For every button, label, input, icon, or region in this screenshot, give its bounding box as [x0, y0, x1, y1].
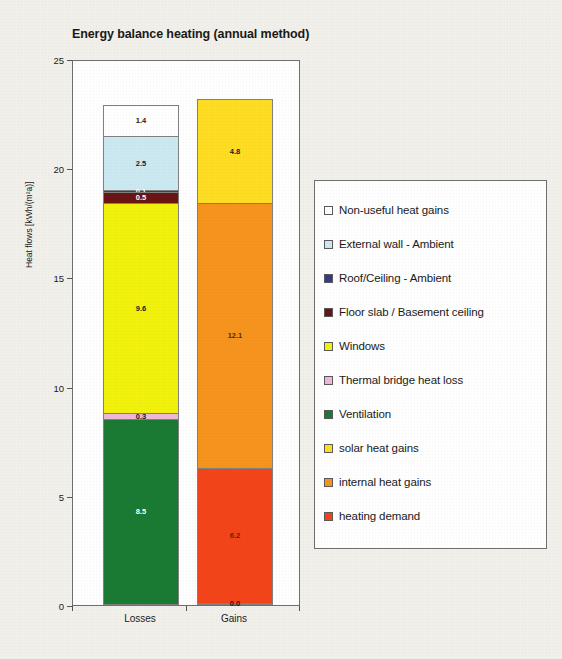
x-axis-category-label-gains: Gains — [189, 613, 279, 624]
bar-segment-value-label: 12.1 — [228, 332, 243, 340]
legend-swatch-icon — [324, 206, 333, 215]
x-axis-tick-marks — [72, 606, 300, 612]
legend-swatch-icon — [324, 410, 333, 419]
x-axis-tick-mark — [186, 606, 187, 611]
legend-item-label: Thermal bridge heat loss — [339, 374, 463, 386]
legend-item[interactable]: Thermal bridge heat loss — [324, 363, 546, 397]
legend-swatch-icon — [324, 274, 333, 283]
y-axis-tick-labels: 0510152025 — [36, 0, 64, 659]
legend-item[interactable]: Floor slab / Basement ceiling — [324, 295, 546, 329]
y-axis-tick-label: 20 — [36, 164, 64, 175]
bar-segment[interactable]: 1.4 — [103, 105, 179, 136]
y-axis-tick-label: 0 — [36, 601, 64, 612]
legend-item[interactable]: internal heat gains — [324, 465, 546, 499]
bar-segment-value-label: 2.5 — [136, 160, 146, 168]
bar-segment-value-label: 8.5 — [136, 508, 146, 516]
legend-item-label: solar heat gains — [339, 442, 419, 454]
plot-area: 1.42.50.10.59.60.38.5 4.812.16.20.0 — [72, 60, 300, 606]
bar-segment[interactable]: 2.5 — [103, 136, 179, 191]
y-axis-tick-label: 25 — [36, 55, 64, 66]
bar-segment[interactable]: 6.2 — [197, 468, 273, 603]
y-axis-tick-label: 10 — [36, 382, 64, 393]
x-axis-category-labels: LossesGains — [72, 613, 300, 633]
legend-swatch-icon — [324, 240, 333, 249]
legend-item[interactable]: Roof/Ceiling - Ambient — [324, 261, 546, 295]
legend-item-label: heating demand — [339, 510, 420, 522]
x-axis-tick-mark — [299, 606, 300, 611]
chart-legend: Non-useful heat gainsExternal wall - Amb… — [314, 180, 547, 549]
legend-item-label: Roof/Ceiling - Ambient — [339, 272, 451, 284]
bar-segment[interactable]: 12.1 — [197, 203, 273, 467]
bar-segment-value-label: 0.5 — [136, 194, 146, 202]
legend-swatch-icon — [324, 478, 333, 487]
legend-swatch-icon — [324, 444, 333, 453]
energy-balance-chart: Energy balance heating (annual method) H… — [0, 0, 562, 659]
bar-segment[interactable]: 8.5 — [103, 419, 179, 605]
bar-segment[interactable]: 9.6 — [103, 203, 179, 413]
chart-title: Energy balance heating (annual method) — [72, 27, 309, 41]
y-axis-tick-label: 5 — [36, 491, 64, 502]
bar-segment-value-label: 1.4 — [136, 117, 146, 125]
bar-segment-value-label: 6.2 — [230, 532, 240, 540]
legend-item[interactable]: heating demand — [324, 499, 546, 533]
legend-item-label: Ventilation — [339, 408, 391, 420]
bar-segment[interactable]: 0.5 — [103, 192, 179, 203]
legend-swatch-icon — [324, 376, 333, 385]
legend-item-label: internal heat gains — [339, 476, 431, 488]
bar-segment-value-label: 4.8 — [230, 148, 240, 156]
bar-segment-value-label: 9.6 — [136, 305, 146, 313]
legend-swatch-icon — [324, 342, 333, 351]
y-axis-tick-marks — [0, 0, 5, 659]
x-axis-category-label-losses: Losses — [95, 613, 185, 624]
legend-item[interactable]: solar heat gains — [324, 431, 546, 465]
stacked-bar-gains[interactable]: 4.812.16.20.0 — [197, 99, 273, 605]
legend-swatch-icon — [324, 512, 333, 521]
legend-item-label: Non-useful heat gains — [339, 204, 449, 216]
legend-item-label: Windows — [339, 340, 385, 352]
legend-item[interactable]: Ventilation — [324, 397, 546, 431]
x-axis-tick-mark — [72, 606, 73, 611]
legend-item[interactable]: Windows — [324, 329, 546, 363]
legend-item-label: External wall - Ambient — [339, 238, 454, 250]
bar-segment[interactable]: 4.8 — [197, 99, 273, 204]
stacked-bar-losses[interactable]: 1.42.50.10.59.60.38.5 — [103, 105, 179, 605]
legend-item-label: Floor slab / Basement ceiling — [339, 306, 484, 318]
y-axis-tick-label: 15 — [36, 273, 64, 284]
legend-item[interactable]: Non-useful heat gains — [324, 193, 546, 227]
bar-segment[interactable]: 0.0 — [197, 603, 273, 605]
legend-item[interactable]: External wall - Ambient — [324, 227, 546, 261]
legend-swatch-icon — [324, 308, 333, 317]
y-axis-title: Heat flows [kWh/(m²a)] — [24, 108, 34, 268]
